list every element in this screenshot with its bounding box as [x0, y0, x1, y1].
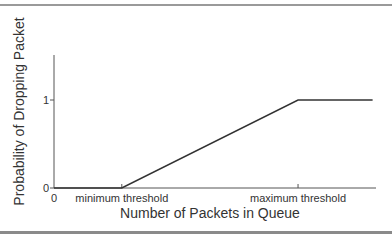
series-line-drop-probability: [54, 100, 373, 188]
x-tick-label-min-threshold: minimum threshold: [75, 192, 168, 204]
x-axis-title: Number of Packets in Queue: [120, 205, 300, 221]
y-axis-title: Probability of Dropping Packet: [11, 17, 27, 205]
x-tick-label-max-threshold: maximum threshold: [250, 192, 346, 204]
x-tick-label-zero: 0: [51, 192, 57, 204]
y-tick-label-0: 0: [43, 182, 49, 194]
y-tick-label-1: 1: [43, 94, 49, 106]
chart: 0 1 0 minimum threshold maximum threshol…: [0, 0, 392, 241]
